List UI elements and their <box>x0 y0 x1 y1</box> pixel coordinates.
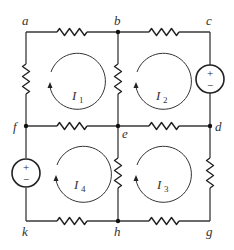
node-label-h: h <box>114 224 121 239</box>
arrow-icon <box>134 175 139 181</box>
node-label-c: c <box>206 13 212 28</box>
node-label-f: f <box>13 119 19 134</box>
svg-text:3: 3 <box>164 184 169 194</box>
mesh-loop-3: I 3 <box>134 146 192 202</box>
svg-text:4: 4 <box>81 184 86 194</box>
resistor-hg <box>149 218 179 225</box>
svg-text:I: I <box>156 177 162 192</box>
plus-sign: + <box>23 161 29 173</box>
svg-text:2: 2 <box>163 95 168 105</box>
svg-text:I: I <box>73 177 79 192</box>
resistor-kh <box>57 218 87 225</box>
voltage-source-cd: + − <box>196 64 224 94</box>
node-label-a: a <box>22 13 29 28</box>
svg-text:I: I <box>71 88 77 103</box>
resistor-be <box>115 64 122 94</box>
svg-text:I: I <box>155 88 161 103</box>
arrow-icon <box>48 82 53 88</box>
resistor-af <box>23 64 30 94</box>
svg-text:1: 1 <box>79 95 84 105</box>
resistor-ed <box>149 123 179 130</box>
arrow-icon <box>134 82 139 88</box>
mesh-loop-2: I 2 <box>134 53 192 109</box>
resistor-fe <box>57 123 87 130</box>
minus-sign: − <box>207 79 213 91</box>
mesh-loop-1: I 1 <box>48 53 106 109</box>
minus-sign: − <box>23 173 29 185</box>
resistor-bc <box>149 29 179 36</box>
resistor-eh <box>115 158 122 188</box>
node-label-b: b <box>114 13 121 28</box>
mesh-loop-4: I 4 <box>54 146 112 202</box>
voltage-source-fk: + − <box>12 159 40 187</box>
circuit-diagram: + − + − I 1 I 2 I 3 I 4 a <box>0 0 234 250</box>
resistor-ab <box>57 29 87 36</box>
plus-sign: + <box>207 67 213 79</box>
node-label-d: d <box>215 119 222 134</box>
node-label-k: k <box>22 224 28 239</box>
node-label-g: g <box>206 224 213 239</box>
node-label-e: e <box>122 126 128 141</box>
resistor-dg <box>207 158 214 188</box>
arrow-icon <box>54 175 59 181</box>
